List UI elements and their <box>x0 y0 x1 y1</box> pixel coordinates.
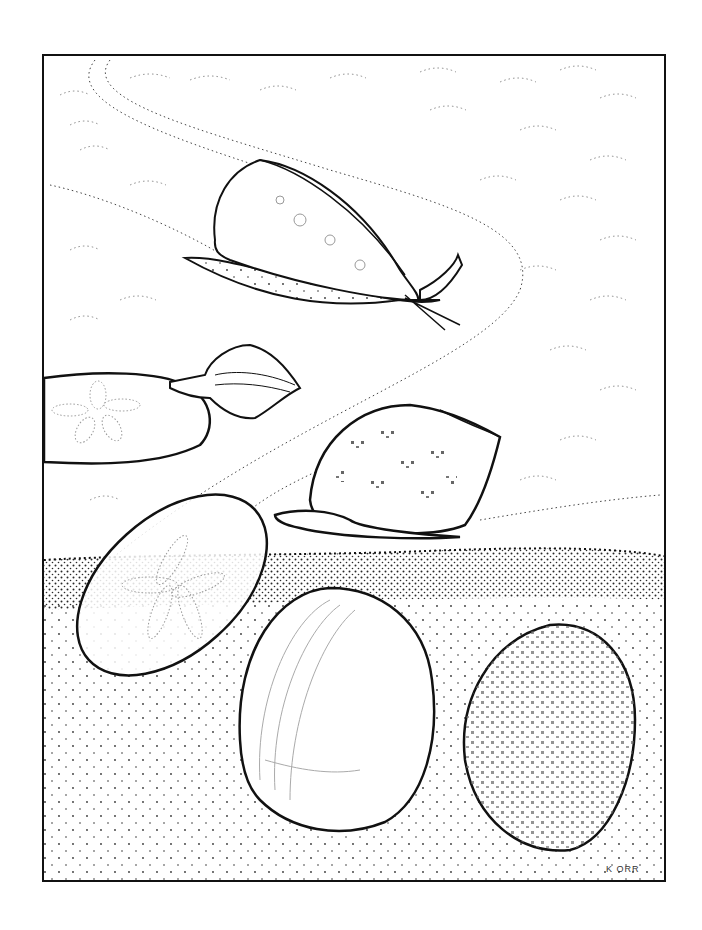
illustration <box>0 0 702 930</box>
artist-signature: K ORR <box>606 864 640 874</box>
clam-shell <box>240 588 434 831</box>
